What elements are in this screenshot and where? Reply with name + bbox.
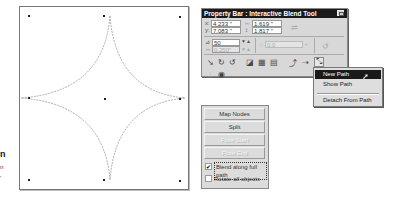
rotate-all-objects-checkbox[interactable]: Rotate all objects xyxy=(205,174,267,184)
node-handle[interactable] xyxy=(103,15,105,17)
menu-item-detach-from-path[interactable]: Detach From Path xyxy=(315,96,381,105)
margin-text-fragment: ' xyxy=(0,175,1,181)
split-button[interactable]: Split xyxy=(204,121,265,133)
node-handle[interactable] xyxy=(28,15,30,17)
checkbox-unchecked[interactable] xyxy=(205,175,212,182)
divider xyxy=(204,36,344,37)
blend-options-panel: Map Nodes Split Fuse Start Fuse End ✔ Bl… xyxy=(201,105,269,189)
start-end-properties-icon[interactable]: ⤴ xyxy=(288,57,298,67)
margin-text-fragment: n xyxy=(0,149,6,159)
spacing-icon: ↔ xyxy=(205,46,211,53)
menu-separator xyxy=(317,93,379,95)
steps-spinner[interactable]: ▼▲ xyxy=(241,38,251,45)
close-icon[interactable] xyxy=(337,10,344,16)
property-bar-titlebar[interactable]: Property Bar : Interactive Blend Tool xyxy=(202,9,347,18)
checkbox-label: Rotate all objects xyxy=(214,174,260,184)
object-size-lock-icon[interactable]: ⇌ xyxy=(288,21,300,33)
direction-spinner[interactable]: ÷ xyxy=(305,41,308,48)
star-path[interactable] xyxy=(21,16,185,180)
blend-along-full-path-checkbox[interactable]: ✔ Blend along full path xyxy=(205,162,267,172)
y-position-field[interactable]: 7.083 " xyxy=(211,27,241,34)
counterclockwise-blend-icon[interactable]: ↺ xyxy=(227,57,237,67)
y-label: y: xyxy=(205,27,210,34)
width-label: ↔ xyxy=(244,20,250,27)
steps-icon: ⊿ xyxy=(205,39,210,46)
object-color-acceleration-icon[interactable]: ◪ xyxy=(245,57,255,67)
menu-item-new-path[interactable]: New Path xyxy=(315,70,381,79)
blend-direction-field[interactable]: 0.0 xyxy=(265,41,303,48)
node-handle[interactable] xyxy=(179,16,181,18)
height-field[interactable]: 1.817 " xyxy=(252,27,282,34)
path-menu-icon[interactable]: ⤡ xyxy=(314,57,324,67)
clear-blend-icon[interactable]: ◉ xyxy=(216,69,226,79)
x-label: x: xyxy=(205,20,210,27)
spacing-spinner[interactable]: ▼▲ xyxy=(241,46,251,53)
menu-item-show-path[interactable]: Show Path xyxy=(315,80,381,89)
map-nodes-button[interactable]: Map Nodes xyxy=(204,108,265,120)
width-field[interactable]: 1.619 " xyxy=(252,20,282,27)
copy-blend-icon[interactable]: ↓ xyxy=(205,69,215,79)
x-position-field[interactable]: 4.233 " xyxy=(211,20,241,27)
clockwise-blend-icon[interactable]: ↻ xyxy=(216,57,226,67)
blend-steps-field[interactable]: 50 xyxy=(212,39,240,46)
path-properties-icon[interactable]: ⇢ xyxy=(300,57,310,67)
node-handle[interactable] xyxy=(104,98,106,100)
accelerate-fill-icon[interactable]: ▤ xyxy=(269,57,279,67)
path-dropdown-menu: New Path Show Path Detach From Path ➚ xyxy=(313,67,383,107)
node-handle[interactable] xyxy=(28,97,30,99)
fuse-end-button[interactable]: Fuse End xyxy=(204,147,265,159)
blend-spacing-field[interactable]: 0.250" xyxy=(212,46,240,53)
node-handle[interactable] xyxy=(179,180,181,182)
accelerate-sizes-icon[interactable]: ▦ xyxy=(257,57,267,67)
mouse-cursor-icon: ➚ xyxy=(362,72,369,81)
blend-direction-icon: ◌ xyxy=(259,42,263,49)
star-path-drawing[interactable] xyxy=(20,7,188,189)
node-handle[interactable] xyxy=(179,98,181,100)
property-bar-title: Property Bar : Interactive Blend Tool xyxy=(204,10,317,17)
loop-blend-icon[interactable]: ↺ xyxy=(320,41,330,51)
node-handle[interactable] xyxy=(103,179,105,181)
fuse-start-button[interactable]: Fuse Start xyxy=(204,134,265,146)
checkbox-checked[interactable]: ✔ xyxy=(205,163,212,170)
drawing-canvas[interactable] xyxy=(19,6,189,190)
divider xyxy=(314,38,315,53)
direct-blend-icon[interactable]: ↘ xyxy=(205,57,215,67)
margin-text-fragment: n xyxy=(0,164,3,170)
divider xyxy=(204,54,344,55)
divider xyxy=(255,38,256,53)
height-label: ↕ xyxy=(245,27,248,34)
node-handle[interactable] xyxy=(28,179,30,181)
